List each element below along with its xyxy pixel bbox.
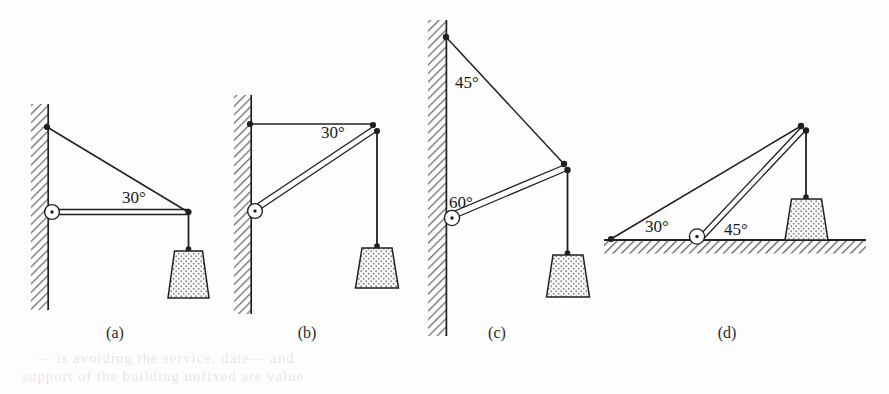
panel-b-anchor-node (247, 121, 253, 127)
panel-b-wall (234, 95, 251, 314)
panel-d-tie-rod (611, 126, 801, 239)
panel-d-angle-label-0: 30° (645, 217, 669, 236)
mechanics-figure: 30° (a) (0, 0, 889, 394)
figure-container: 30° (a) (0, 0, 889, 394)
panel-d-anchor-node (608, 236, 614, 242)
panel-c-caption: (c) (488, 324, 506, 342)
panel-a-wall (31, 104, 48, 310)
panel-c-weight (547, 255, 590, 297)
panel-c-joint-node (561, 161, 567, 167)
panel-b-strut (253, 126, 378, 212)
panel-b-weight (356, 248, 399, 288)
panel-d-angle-label-1: 45° (724, 220, 748, 239)
panel-d-ground (604, 240, 866, 254)
panel-b: 30° (b) (234, 95, 399, 342)
panel-a-caption: (a) (106, 324, 124, 342)
panel-d: 30° 45° (d) (604, 123, 866, 342)
panel-d-pivot-icon (689, 229, 704, 244)
panel-c-pivot-icon (444, 210, 459, 225)
panel-c-anchor-node (443, 34, 449, 40)
panel-c-angle-label-1: 60° (449, 193, 473, 212)
panel-b-pivot-icon (248, 204, 263, 219)
panel-c-tie-rod (446, 37, 564, 164)
panel-a: 30° (a) (31, 104, 209, 342)
panel-a-anchor-node (44, 124, 50, 130)
panel-d-apex-node (798, 123, 804, 129)
panel-a-pivot-icon (45, 205, 60, 220)
panel-b-angle-label-0: 30° (321, 123, 345, 142)
panel-a-tie-rod (47, 127, 188, 212)
panel-c: 45° 60° (c) (428, 20, 590, 342)
panel-b-caption: (b) (298, 324, 317, 342)
panel-a-weight (168, 251, 209, 298)
panel-d-weight (785, 199, 828, 240)
panel-a-strut (47, 210, 189, 215)
panel-a-angle-label-0: 30° (122, 188, 146, 207)
panel-d-caption: (d) (718, 324, 737, 342)
panel-c-wall (428, 20, 446, 336)
panel-c-angle-label-0: 45° (455, 73, 479, 92)
panel-b-joint-node (370, 122, 376, 128)
